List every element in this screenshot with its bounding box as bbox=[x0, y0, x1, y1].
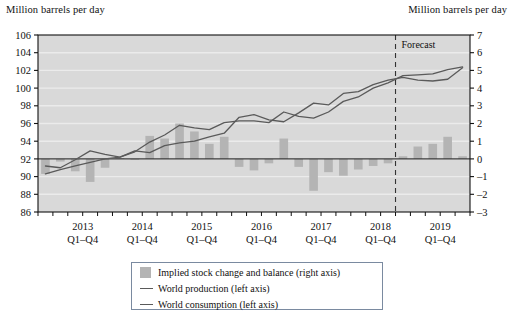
svg-text:2016: 2016 bbox=[251, 221, 272, 232]
svg-text:5: 5 bbox=[477, 65, 482, 76]
legend-label-production: World production (left axis) bbox=[158, 283, 270, 294]
legend-line-icon bbox=[140, 304, 153, 305]
legend-swatch-icon bbox=[140, 267, 151, 278]
svg-text:94: 94 bbox=[21, 136, 32, 147]
svg-text:88: 88 bbox=[21, 189, 32, 200]
legend-label-consumption: World consumption (left axis) bbox=[158, 299, 278, 310]
svg-text:Forecast: Forecast bbox=[402, 39, 436, 50]
svg-text:104: 104 bbox=[15, 47, 32, 58]
svg-text:2019: 2019 bbox=[430, 221, 451, 232]
svg-text:Q1–Q4: Q1–Q4 bbox=[127, 234, 159, 245]
svg-text:Q1–Q4: Q1–Q4 bbox=[186, 234, 218, 245]
forecast-annotation: Forecast bbox=[402, 39, 436, 50]
chart-container: Million barrels per day Million barrels … bbox=[0, 0, 513, 320]
left-axis-ticks: 86889092949698100102104106 bbox=[15, 30, 38, 218]
svg-text:Q1–Q4: Q1–Q4 bbox=[365, 234, 397, 245]
svg-text:92: 92 bbox=[21, 154, 32, 165]
svg-text:4: 4 bbox=[477, 83, 483, 94]
chart-legend: Implied stock change and balance (right … bbox=[131, 262, 383, 310]
svg-text:7: 7 bbox=[477, 30, 482, 41]
legend-item-bars: Implied stock change and balance (right … bbox=[140, 265, 382, 279]
svg-text:–2: –2 bbox=[476, 189, 488, 200]
svg-text:Q1–Q4: Q1–Q4 bbox=[425, 234, 457, 245]
svg-text:2013: 2013 bbox=[72, 221, 93, 232]
svg-text:86: 86 bbox=[21, 207, 32, 218]
svg-text:96: 96 bbox=[21, 118, 32, 129]
right-axis-ticks: –3–2–101234567 bbox=[470, 30, 488, 218]
svg-text:1: 1 bbox=[477, 136, 482, 147]
legend-item-consumption: World consumption (left axis) bbox=[140, 297, 382, 311]
svg-text:2018: 2018 bbox=[370, 221, 391, 232]
svg-text:Q1–Q4: Q1–Q4 bbox=[246, 234, 278, 245]
svg-text:102: 102 bbox=[15, 65, 31, 76]
svg-text:–1: –1 bbox=[476, 171, 488, 182]
x-axis-labels: 2013Q1–Q42014Q1–Q42015Q1–Q42016Q1–Q42017… bbox=[67, 221, 456, 245]
legend-line-icon bbox=[140, 288, 153, 289]
svg-text:–3: –3 bbox=[476, 207, 488, 218]
svg-text:Q1–Q4: Q1–Q4 bbox=[306, 234, 338, 245]
svg-text:100: 100 bbox=[15, 83, 31, 94]
svg-text:106: 106 bbox=[15, 30, 31, 41]
svg-text:6: 6 bbox=[477, 47, 482, 58]
svg-text:2: 2 bbox=[477, 118, 482, 129]
svg-text:2017: 2017 bbox=[311, 221, 332, 232]
svg-text:0: 0 bbox=[477, 154, 482, 165]
svg-text:2014: 2014 bbox=[132, 221, 154, 232]
x-axis-ticks bbox=[38, 212, 470, 216]
svg-text:3: 3 bbox=[477, 100, 482, 111]
svg-text:98: 98 bbox=[21, 100, 32, 111]
svg-text:2015: 2015 bbox=[191, 221, 212, 232]
svg-text:90: 90 bbox=[21, 171, 32, 182]
legend-label-bars: Implied stock change and balance (right … bbox=[158, 267, 340, 278]
svg-text:Q1–Q4: Q1–Q4 bbox=[67, 234, 99, 245]
legend-item-production: World production (left axis) bbox=[140, 281, 382, 295]
